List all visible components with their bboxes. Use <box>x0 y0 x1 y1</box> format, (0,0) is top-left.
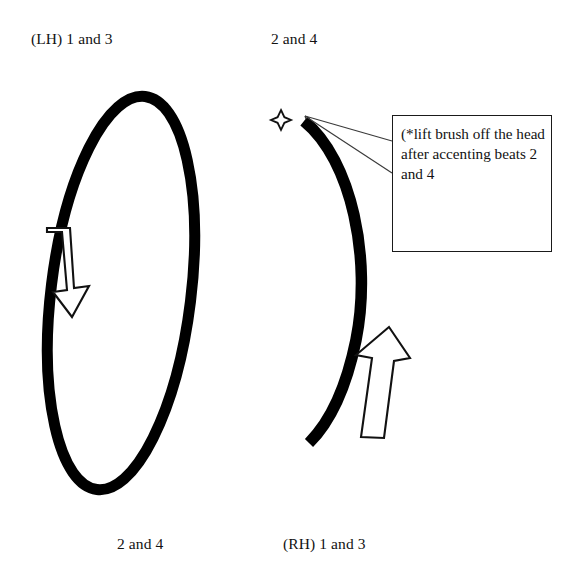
brush-pattern-diagram: (LH) 1 and 3 2 and 4 2 and 4 (RH) 1 and … <box>0 0 586 584</box>
right-up-arrow-shape <box>356 327 410 438</box>
leader-line-lower <box>305 116 392 173</box>
label-right-hand-beats: (RH) 1 and 3 <box>283 535 366 553</box>
callout-note-text: (*lift brush off the head after accentin… <box>401 124 549 183</box>
label-bottom-left-beats: 2 and 4 <box>117 535 163 553</box>
four-point-star-icon <box>271 110 291 130</box>
label-left-hand-beats: (LH) 1 and 3 <box>31 30 113 48</box>
star-shape <box>271 110 291 130</box>
label-top-right-beats: 2 and 4 <box>271 30 317 48</box>
right-up-arrow <box>356 327 410 438</box>
diagram-artwork <box>0 0 586 584</box>
callout-leader-lines <box>305 116 392 173</box>
right-arc-stroke <box>304 121 361 443</box>
right-open-arc <box>304 121 361 443</box>
